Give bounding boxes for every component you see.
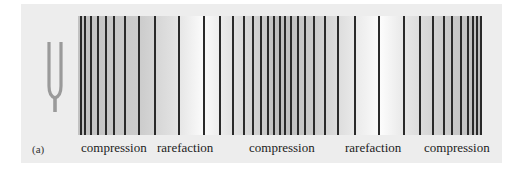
- rarefaction-label: rarefaction: [157, 140, 213, 156]
- wavefront-line: [337, 16, 339, 135]
- wavefront-line: [267, 16, 269, 135]
- wavefront-line: [284, 16, 286, 135]
- compression-label: compression: [81, 140, 147, 156]
- wavefront-line: [90, 16, 92, 135]
- wavefront-line: [219, 16, 221, 135]
- wavefront-line: [403, 16, 405, 135]
- compression-label: compression: [424, 140, 490, 156]
- wavefront-line: [354, 16, 356, 135]
- wavefront-line: [279, 16, 281, 135]
- wavefront-line: [232, 16, 234, 135]
- wavefront-line: [260, 16, 262, 135]
- wavefront-line: [443, 16, 445, 135]
- wavefront-line: [154, 16, 156, 135]
- wavefront-line: [138, 16, 140, 135]
- wavefront-line: [80, 16, 82, 135]
- wavefront-line: [290, 16, 292, 135]
- wavefront-line: [243, 16, 245, 135]
- wavefront-line: [313, 16, 315, 135]
- compression-label: compression: [249, 140, 315, 156]
- wavefront-line: [297, 16, 299, 135]
- wavefront-line: [467, 16, 469, 135]
- wavefront-line: [480, 16, 482, 135]
- wavefront-line: [84, 16, 86, 135]
- wavefront-line: [203, 16, 205, 135]
- panel-label: (a): [32, 143, 44, 155]
- wavefront-line: [124, 16, 126, 135]
- wavefront-line: [252, 16, 254, 135]
- wavefront-line: [178, 16, 180, 135]
- wavefront-line: [273, 16, 275, 135]
- wavefront-line: [113, 16, 115, 135]
- wavefront-line: [105, 16, 107, 135]
- wavefront-line: [324, 16, 326, 135]
- wavefront-line: [432, 16, 434, 135]
- wavefront-line: [378, 16, 380, 135]
- wavefront-line: [304, 16, 306, 135]
- wavefront-line: [460, 16, 462, 135]
- tuning-fork-icon: [44, 38, 66, 114]
- wavefront-line: [97, 16, 99, 135]
- wavefront-line: [476, 16, 478, 135]
- wavefront-line: [419, 16, 421, 135]
- rarefaction-label: rarefaction: [345, 140, 401, 156]
- wavefront-line: [472, 16, 474, 135]
- wavefront-line: [451, 16, 453, 135]
